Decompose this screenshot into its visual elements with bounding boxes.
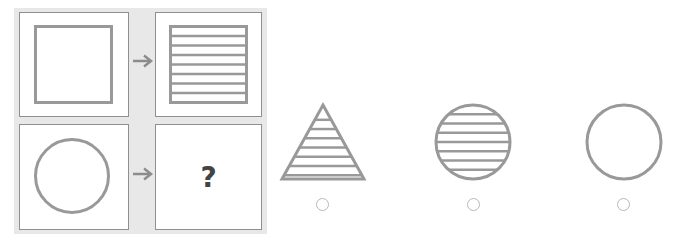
striped-square-icon: [156, 13, 263, 118]
triangle-outline: [282, 105, 364, 179]
plain-circle-icon: [584, 102, 664, 182]
cell-target-striped-square: [155, 12, 262, 117]
option-plain-circle[interactable]: [584, 102, 664, 182]
arrow-right-icon: [132, 167, 154, 181]
question-mark: ?: [156, 125, 261, 229]
option-striped-triangle[interactable]: [278, 100, 368, 184]
arrow-right-icon: [132, 54, 154, 68]
circle-shape-icon: [20, 125, 130, 231]
option-striped-circle[interactable]: [433, 102, 513, 182]
striped-triangle-icon: [278, 100, 368, 184]
option-2-radio[interactable]: [467, 198, 480, 211]
cell-unknown-answer: ?: [155, 124, 262, 230]
cell-source-square: [19, 12, 129, 117]
option-3-radio[interactable]: [617, 198, 630, 211]
option-1-radio[interactable]: [316, 198, 329, 211]
cell-source-circle: [19, 124, 129, 230]
striped-circle-icon: [433, 102, 513, 182]
square-shape-icon: [20, 13, 130, 118]
puzzle-panel: ?: [14, 8, 267, 234]
